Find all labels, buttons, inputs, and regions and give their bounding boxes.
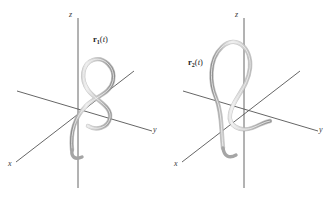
panel-right: z y x r2(t): [166, 0, 332, 201]
curve-r2-tail: [223, 148, 236, 157]
curve-r1-tail: [72, 150, 82, 158]
x-axis-label-right: x: [174, 160, 178, 168]
x-axis-label-left: x: [8, 160, 12, 168]
curve-label-r1-paren-close: ): [105, 34, 108, 44]
y-axis-label-right: y: [319, 126, 323, 134]
curve-label-r1: r1(t): [93, 35, 108, 45]
x-axis-line-right: [182, 71, 300, 162]
curve-label-r2-paren-close: ): [200, 57, 203, 67]
coordinate-system-right: [166, 0, 332, 201]
y-axis-label-left: y: [153, 126, 157, 134]
curve-r2: [211, 42, 270, 148]
curve-label-r2: r2(t): [188, 58, 203, 68]
panel-left: z y x r1(t): [0, 0, 166, 201]
y-axis-line-right: [183, 91, 318, 131]
x-axis-line-left: [16, 71, 134, 162]
z-axis-label-left: z: [69, 11, 72, 19]
z-axis-label-right: z: [235, 11, 238, 19]
y-axis-line-left: [17, 91, 152, 131]
figure-container: z y x r1(t): [0, 0, 332, 201]
coordinate-system-left: [0, 0, 166, 201]
